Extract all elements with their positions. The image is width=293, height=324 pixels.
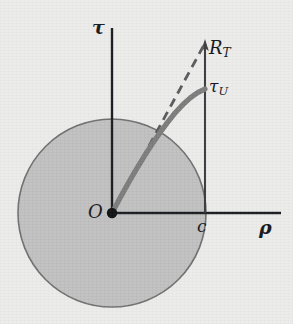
- origin-dot: [107, 208, 117, 218]
- asymptote-label: RT: [209, 39, 231, 60]
- origin-label: O: [88, 203, 103, 221]
- asymptote-label-subscript: T: [223, 46, 231, 60]
- c-tick-label: c: [197, 218, 207, 235]
- tau-axis-label: τ: [92, 18, 105, 37]
- asymptote-label-base: R: [209, 37, 223, 58]
- plot-svg: [0, 0, 293, 324]
- curve-label-subscript: U: [218, 84, 228, 98]
- curve-label: τU: [209, 78, 228, 98]
- rho-axis-label: ρ: [259, 218, 272, 237]
- figure-canvas: τ ρ O c RT τU: [0, 0, 293, 324]
- curve-label-base: τ: [209, 76, 218, 96]
